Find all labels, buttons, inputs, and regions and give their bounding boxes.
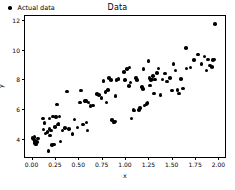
- scatter-point: [138, 106, 142, 110]
- scatter-point: [163, 72, 167, 76]
- scatter-point: [128, 66, 132, 70]
- scatter-point: [79, 89, 83, 93]
- scatter-point: [155, 71, 159, 75]
- scatter-point: [161, 78, 165, 82]
- x-tick: [32, 157, 33, 160]
- scatter-point: [212, 58, 216, 62]
- scatter-point: [71, 132, 75, 136]
- scatter-point: [49, 129, 53, 133]
- scatter-point: [168, 76, 172, 80]
- x-tick: [125, 157, 126, 160]
- scatter-point: [159, 93, 163, 97]
- y-axis-label: y: [0, 84, 5, 88]
- scatter-point: [102, 79, 106, 83]
- scatter-point: [213, 22, 217, 26]
- scatter-point: [133, 109, 137, 113]
- scatter-point: [58, 115, 62, 119]
- scatter-point: [210, 65, 214, 69]
- scatter-point: [117, 77, 121, 81]
- scatter-points-layer: [25, 16, 225, 157]
- x-tick-label: 0.25: [48, 161, 61, 168]
- y-tick-label: 6: [16, 106, 20, 113]
- scatter-point: [123, 78, 127, 82]
- scatter-point: [76, 126, 80, 130]
- scatter-point: [148, 84, 152, 88]
- scatter-point: [55, 103, 59, 107]
- scatter-point: [52, 143, 56, 147]
- y-tick-label: 4: [16, 135, 20, 142]
- scatter-point: [59, 140, 63, 144]
- scatter-point: [206, 58, 210, 62]
- scatter-point: [172, 62, 176, 66]
- scatter-point: [157, 67, 161, 71]
- scatter-point: [129, 81, 133, 85]
- scatter-point: [153, 78, 157, 82]
- y-tick: [22, 139, 25, 140]
- scatter-point: [91, 104, 95, 108]
- x-tick-label: 1.25: [142, 161, 155, 168]
- legend-label: Actual data: [18, 4, 55, 12]
- scatter-point: [127, 84, 131, 88]
- scatter-point: [78, 101, 82, 105]
- scatter-point: [179, 77, 183, 81]
- scatter-point: [174, 69, 178, 73]
- scatter-point: [114, 94, 118, 98]
- x-tick: [172, 157, 173, 160]
- y-tick-label: 10: [12, 46, 20, 53]
- x-tick-label: 2.00: [212, 161, 225, 168]
- scatter-point: [181, 87, 185, 91]
- scatter-point: [142, 67, 146, 71]
- scatter-point: [189, 66, 193, 70]
- scatter-point: [105, 101, 109, 105]
- scatter-point: [35, 140, 39, 144]
- scatter-point: [170, 89, 174, 93]
- x-tick-label: 1.00: [118, 161, 131, 168]
- scatter-point: [41, 117, 45, 121]
- scatter-point: [36, 137, 40, 141]
- scatter-point: [165, 80, 169, 84]
- y-tick: [22, 20, 25, 21]
- y-tick: [22, 109, 25, 110]
- x-tick-label: 0.00: [25, 161, 38, 168]
- legend-marker-icon: [8, 6, 12, 10]
- scatter-point: [106, 88, 110, 92]
- x-tick: [148, 157, 149, 160]
- chart-legend: Actual data: [8, 4, 55, 12]
- scatter-point: [85, 121, 89, 125]
- scatter-point: [42, 128, 46, 132]
- scatter-point: [43, 121, 47, 125]
- scatter-point: [67, 127, 71, 131]
- y-tick: [22, 79, 25, 80]
- scatter-point: [109, 78, 113, 82]
- x-tick: [102, 157, 103, 160]
- y-tick: [22, 50, 25, 51]
- scatter-point: [48, 134, 52, 138]
- scatter-point: [177, 92, 181, 96]
- scatter-point: [81, 123, 85, 127]
- scatter-point: [135, 78, 139, 82]
- plot-axes: 0.000.250.500.751.001.251.501.752.004681…: [24, 15, 226, 158]
- scatter-point: [130, 117, 134, 121]
- scatter-point: [196, 53, 200, 57]
- x-tick: [78, 157, 79, 160]
- x-axis-label: x: [24, 172, 226, 180]
- x-tick: [195, 157, 196, 160]
- y-tick-label: 8: [16, 76, 20, 83]
- scatter-point: [147, 59, 151, 63]
- scatter-point: [113, 120, 117, 124]
- scatter-point: [192, 58, 196, 62]
- x-tick-label: 0.75: [95, 161, 108, 168]
- x-tick-label: 1.50: [165, 161, 178, 168]
- scatter-point: [86, 129, 90, 133]
- scatter-point: [200, 62, 204, 66]
- scatter-point: [185, 67, 189, 71]
- scatter-point: [57, 122, 61, 126]
- scatter-point: [205, 69, 209, 73]
- scatter-point: [184, 46, 188, 50]
- scatter-point: [141, 87, 145, 91]
- scatter-point: [65, 90, 69, 94]
- scatter-point: [100, 96, 104, 100]
- scatter-point: [152, 92, 156, 96]
- chart-figure: Data 0.000.250.500.751.001.251.501.752.0…: [0, 0, 235, 190]
- x-tick: [218, 157, 219, 160]
